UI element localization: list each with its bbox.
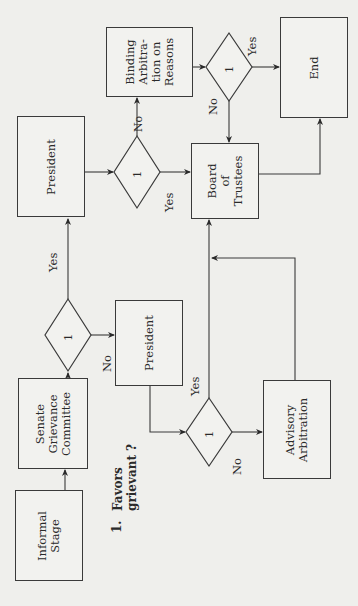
- decision-2-label: 1: [131, 171, 144, 178]
- node-president-middle: President: [115, 300, 183, 386]
- node-binding-arbitration: Binding Arbitra- tion on Reasons: [106, 27, 193, 97]
- node-label: Informal Stage: [36, 510, 62, 560]
- node-board-of-trustees: Board of Trustees: [191, 143, 259, 219]
- edge-label-d1-yes: Yes: [47, 253, 60, 272]
- edge-label-d4-yes: Yes: [246, 37, 259, 56]
- node-advisory-arbitration: Advisory Arbitration: [263, 380, 331, 479]
- node-label: Binding Arbitra- tion on Reasons: [124, 38, 176, 86]
- grievance-flowchart: Informal Stage Senate Grievance Committe…: [0, 0, 358, 606]
- node-label: President: [143, 315, 156, 371]
- node-end: End: [280, 17, 348, 118]
- decision-3-label: 1: [203, 431, 216, 438]
- legend-text: Favors grievant ?: [111, 444, 139, 511]
- edge-label-d2-no: No: [132, 116, 145, 132]
- node-senate-grievance-committee: Senate Grievance Committee: [18, 378, 88, 469]
- edge-label-d1-no: No: [101, 355, 114, 372]
- decision-1-label: 1: [62, 334, 75, 341]
- edge-label-d4-no: No: [207, 98, 220, 115]
- edge-label-d3-no: No: [231, 458, 244, 475]
- node-label: Advisory Arbitration: [284, 397, 310, 461]
- node-label: President: [45, 139, 58, 195]
- edge-label-d3-yes: Yes: [189, 377, 202, 396]
- decision-4-label: 1: [223, 66, 236, 73]
- node-label: End: [308, 56, 321, 79]
- edge-label-d2-yes: Yes: [163, 193, 176, 212]
- page-header-cutoff: [110, 0, 310, 4]
- node-label: Senate Grievance Committee: [34, 391, 73, 455]
- node-informal-stage: Informal Stage: [15, 490, 83, 581]
- node-president-top: President: [17, 116, 85, 217]
- node-label: Board of Trustees: [206, 156, 245, 207]
- legend-number: 1.: [111, 520, 124, 533]
